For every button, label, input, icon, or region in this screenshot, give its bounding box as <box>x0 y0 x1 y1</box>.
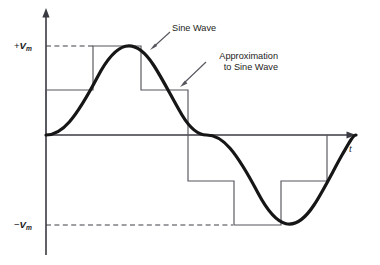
time-axis-label: t <box>349 143 352 154</box>
peak-subscript-positive: m <box>26 45 32 52</box>
sine-wave-annotation: Sine Wave <box>150 23 216 50</box>
vertical-axis-arrowhead <box>42 8 49 18</box>
approximation-annotation: Approximation to Sine Wave <box>180 51 278 87</box>
peak-subscript-negative: m <box>26 224 32 231</box>
approximation-annotation-label-line1: Approximation <box>219 51 278 61</box>
sine-wave-annotation-label: Sine Wave <box>172 23 216 33</box>
negative-peak-label: −Vm <box>14 219 32 231</box>
approximation-annotation-label-line2: to Sine Wave <box>224 62 278 72</box>
positive-peak-label: +Vm <box>14 40 32 52</box>
figure-canvas: +Vm −Vm t Sine Wave Approximation to Sin… <box>0 0 380 265</box>
approximation-leader-line <box>183 62 206 84</box>
sine-wave-approximation-figure: +Vm −Vm t Sine Wave Approximation to Sin… <box>0 0 380 265</box>
